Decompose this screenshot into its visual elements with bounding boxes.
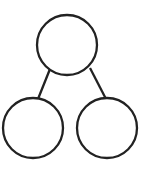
- number-bond-diagram: [0, 0, 145, 170]
- node-top-circle: [37, 15, 97, 75]
- edge-top-left: [38, 69, 50, 99]
- node-left-circle: [3, 98, 63, 158]
- edge-top-right: [90, 68, 106, 99]
- node-right-circle: [77, 98, 137, 158]
